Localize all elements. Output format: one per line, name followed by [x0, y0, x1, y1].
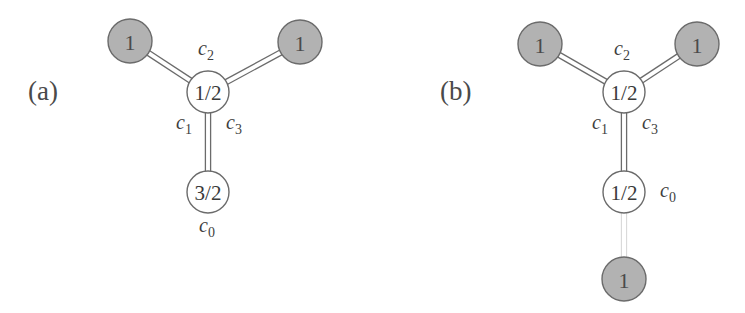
node-b-top-right[interactable]: 1 [675, 22, 719, 66]
edge-label-b-label-c2: c2 [614, 37, 630, 63]
edge-a-edge-c2-right [224, 50, 282, 85]
node-value-label: 3/2 [195, 181, 222, 205]
node-a-center[interactable]: 1/2 [187, 71, 229, 113]
panel-b: (b)111/21/21c2c1c3c0 [440, 22, 719, 301]
node-value-label: 1/2 [195, 81, 222, 105]
panel-label-a: (a) [28, 76, 58, 106]
edge-a-edge-c2-left [146, 50, 193, 83]
node-value-label: 1 [295, 31, 306, 56]
edge-label-subscript: 1 [601, 122, 608, 137]
edge-label-b-label-c1: c1 [592, 111, 608, 137]
edge-label-subscript: 3 [651, 122, 658, 137]
panel-a: (a)111/23/2c2c1c3c0 [28, 19, 322, 240]
diagram-svg: (a)111/23/2c2c1c3c0(b)111/21/21c2c1c3c0 [0, 0, 745, 313]
node-layer-a: 111/23/2 [108, 19, 322, 213]
edge-label-base: c [592, 111, 601, 133]
edge-stroke [560, 52, 608, 80]
node-value-label: 1 [692, 33, 703, 58]
edge-label-subscript: 1 [185, 122, 192, 137]
node-b-center[interactable]: 1/2 [603, 71, 645, 113]
edge-label-subscript: 3 [235, 122, 242, 137]
node-a-bottom[interactable]: 3/2 [187, 171, 229, 213]
node-value-label: 1/2 [611, 81, 638, 105]
node-b-middle[interactable]: 1/2 [603, 171, 645, 213]
edge-label-subscript: 2 [623, 48, 630, 63]
node-value-label: 1 [535, 33, 546, 58]
edge-b-edge-c2-left [557, 52, 608, 84]
edge-stroke [557, 57, 605, 85]
edge-b-edge-c0 [621, 112, 626, 172]
edge-label-base: c [198, 37, 207, 59]
edge-label-base: c [199, 214, 208, 236]
panel-label-b: (b) [440, 76, 471, 106]
edge-label-a-label-c0: c0 [199, 214, 215, 240]
edge-label-b-label-c3: c3 [642, 111, 658, 137]
node-a-top-right[interactable]: 1 [278, 20, 322, 64]
edge-b-edge-c2-right [639, 53, 681, 83]
edge-label-b-label-c0: c0 [660, 179, 676, 205]
edge-stroke [642, 58, 681, 83]
edge-label-subscript: 2 [207, 48, 214, 63]
node-b-top-left[interactable]: 1 [518, 22, 562, 66]
figure-canvas: (a)111/23/2c2c1c3c0(b)111/21/21c2c1c3c0 [0, 0, 745, 313]
node-value-label: 1 [125, 30, 136, 55]
node-value-label: 1 [619, 268, 630, 293]
edge-label-a-label-c3: c3 [226, 111, 242, 137]
edge-label-subscript: 0 [669, 190, 676, 205]
node-layer-b: 111/21/21 [518, 22, 719, 301]
edge-b-edge-faint [621, 212, 626, 258]
edge-label-base: c [614, 37, 623, 59]
edge-stroke [639, 53, 678, 78]
node-b-bottom[interactable]: 1 [602, 257, 646, 301]
edge-stroke [224, 50, 280, 80]
edge-stroke [149, 50, 193, 79]
edge-label-base: c [660, 179, 669, 201]
edge-stroke [146, 55, 190, 84]
edge-label-base: c [226, 111, 235, 133]
edge-label-a-label-c2: c2 [198, 37, 214, 63]
node-value-label: 1/2 [611, 181, 638, 205]
edge-stroke [227, 54, 283, 84]
node-a-top-left[interactable]: 1 [108, 19, 152, 63]
edge-label-a-label-c1: c1 [176, 111, 192, 137]
edge-label-base: c [642, 111, 651, 133]
edge-a-edge-c0 [205, 112, 210, 172]
edge-label-base: c [176, 111, 185, 133]
edge-label-subscript: 0 [208, 225, 215, 240]
